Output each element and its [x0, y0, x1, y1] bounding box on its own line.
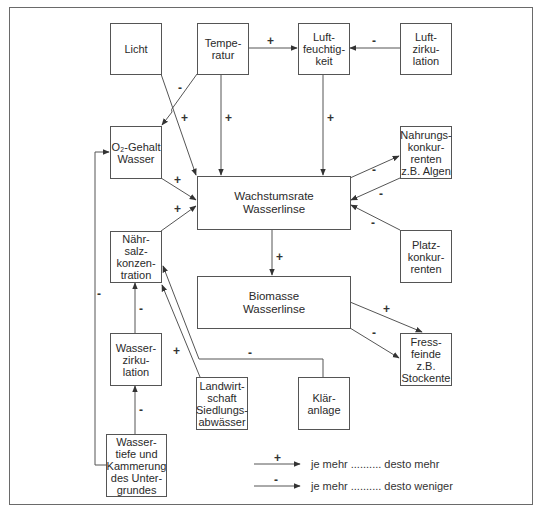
node-o2-gehalt: O₂-Gehalt Wasser: [110, 126, 162, 179]
sign-temperatur-o2: -: [178, 82, 182, 94]
sign-o2-wachstumsrate: +: [174, 174, 181, 186]
arrow-nahrungskonkurrenten-wachstumsrate: [351, 178, 400, 200]
sign-wasserzirkulation-naehrsalz: -: [139, 303, 143, 315]
legend-sign-negative: -: [274, 474, 278, 486]
sign-biomasse-fressfeinde-plus: +: [383, 303, 390, 315]
node-wassertiefe: Wasser- tiefe und Kammerung des Unter- g…: [106, 434, 167, 497]
sign-temperatur-luftfeuchtigkeit: +: [267, 35, 274, 47]
sign-platzkonkurrenten-wachstumsrate: -: [371, 217, 375, 229]
node-wasserzirkulation: Wasser- zirku- lation: [110, 333, 162, 386]
sign-wachstumsrate-nahrungskonkurrenten: -: [372, 164, 376, 176]
sign-wassertiefe-o2: -: [97, 288, 101, 300]
node-fressfeinde: Fress- feinde z.B. Stockente: [400, 333, 452, 386]
sign-biomasse-fressfeinde-minus: -: [372, 327, 376, 339]
node-platzkonkurrenten: Platz- konkur- renten: [400, 230, 452, 283]
node-luftfeuchtigkeit: Luft- feuchtig- keit: [298, 23, 350, 75]
feedback-diagram: Licht Tempe- ratur Luft- feuchtig- keit …: [0, 0, 544, 516]
node-nahrungskonkurrenten: Nahrungs- konkur- renten z.B. Algen: [400, 126, 452, 179]
sign-klaeranlage-naehrsalz: -: [248, 347, 252, 359]
legend-text-positive: je mehr .......... desto mehr: [311, 458, 439, 470]
sign-temperatur-wachstumsrate: +: [225, 112, 232, 124]
arrow-wassertiefe-o2: [95, 152, 109, 465]
node-biomasse: Biomasse Wasserlinse: [197, 276, 351, 329]
sign-landwirtschaft-naehrsalz: +: [173, 345, 180, 357]
connector-layer: [0, 0, 544, 516]
sign-licht-wachstumsrate: +: [181, 112, 188, 124]
sign-luftfeuchtigkeit-wachstumsrate: +: [327, 112, 334, 124]
node-wachstumsrate: Wachstumsrate Wasserlinse: [197, 176, 351, 230]
node-klaeranlage: Klär- anlage: [298, 377, 350, 430]
node-licht: Licht: [110, 23, 162, 75]
legend-sign-positive: +: [274, 452, 281, 464]
node-naehrsalzkonzentration: Nähr- salz- konzen- tration: [110, 231, 162, 283]
sign-wassertiefe-wasserzirkulation: -: [139, 404, 143, 416]
sign-naehrsalz-wachstumsrate: +: [174, 203, 181, 215]
legend-text-negative: je mehr .......... desto weniger: [311, 480, 453, 492]
node-landwirtschaft: Landwirt- schaft Siedlungs- abwässer: [196, 377, 248, 430]
sign-wachstumsrate-biomasse: +: [276, 251, 283, 263]
node-temperatur: Tempe- ratur: [197, 23, 249, 75]
node-luftzirkulation: Luft- zirku- lation: [400, 23, 452, 75]
arrow-landwirtschaft-naehrsalz: [162, 285, 200, 377]
sign-luftzirkulation-luftfeuchtigkeit: -: [372, 35, 376, 47]
arrow-platzkonkurrenten-wachstumsrate: [351, 205, 400, 230]
sign-nahrungskonkurrenten-wachstumsrate: -: [379, 188, 383, 200]
